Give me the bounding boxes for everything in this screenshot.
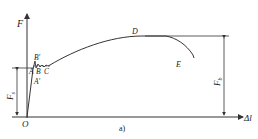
necking-curve [166,36,194,58]
elastic-line [27,69,33,117]
point-label-c: C [44,67,50,76]
origin-label: O [22,119,29,129]
y-axis-label: F [16,18,24,29]
point-label-b: B [36,67,41,76]
yield-force-label: Fs [5,92,16,102]
svg-text:Fb: Fb [212,78,223,88]
svg-text:Fs: Fs [5,92,16,102]
point-label-e: E [175,60,181,69]
max-force-label: Fb [212,78,223,88]
figure-caption: a) [119,124,126,133]
point-label-b-prime: B′ [34,53,41,62]
point-label-d: D [131,27,138,36]
force-elongation-diagram: F Δl O Fs Fb B′ A B C A′ D E a) [0,0,258,139]
x-axis-label: Δl [243,113,252,123]
point-label-a-prime: A′ [33,77,41,86]
point-label-a: A [28,67,34,76]
hardening-curve [50,36,166,65]
